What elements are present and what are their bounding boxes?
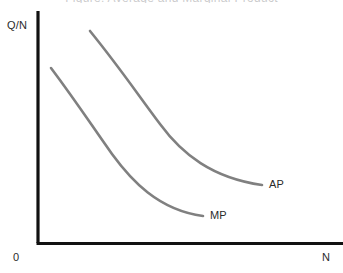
origin-label: 0: [13, 251, 19, 263]
ap-curve: [90, 31, 262, 185]
mp-curve-label: MP: [210, 209, 227, 221]
y-axis-label: Q/N: [7, 19, 27, 31]
x-axis-label: N: [322, 251, 330, 263]
product-curves-figure: Figure: Average and Marginal Product Q/N…: [0, 0, 343, 273]
mp-curve: [51, 68, 203, 216]
ap-curve-label: AP: [269, 178, 284, 190]
chart-plot-area: [0, 0, 343, 273]
